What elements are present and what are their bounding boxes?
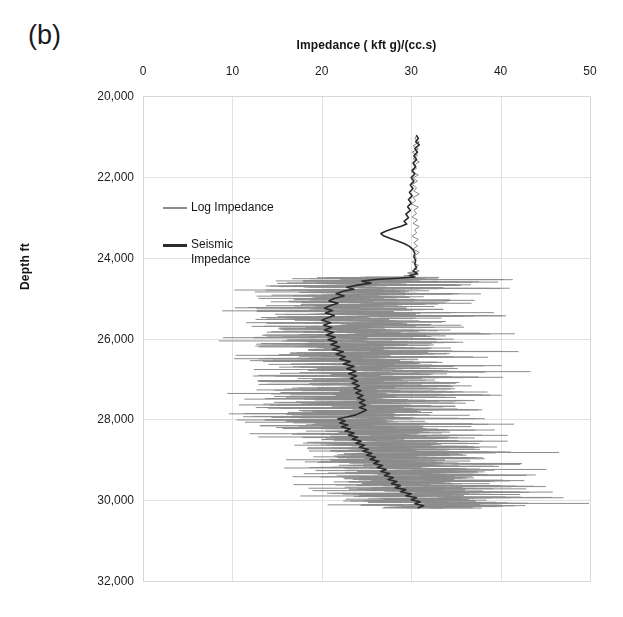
legend-item: Seismic Impedance bbox=[163, 237, 313, 267]
y-tick-label: 20,000 bbox=[97, 89, 134, 103]
y-tick-label: 30,000 bbox=[97, 493, 134, 507]
x-tick-label: 20 bbox=[315, 64, 328, 78]
legend-label: Log Impedance bbox=[191, 200, 274, 215]
legend-label: Seismic Impedance bbox=[191, 237, 283, 267]
y-axis-title: Depth ft bbox=[18, 243, 32, 290]
chart-legend: Log ImpedanceSeismic Impedance bbox=[163, 200, 313, 289]
figure-panel-b: (b) Impedance ( kft g)/(cc.s) 0102030405… bbox=[0, 0, 623, 617]
x-tick-label: 10 bbox=[226, 64, 239, 78]
x-tick-label: 30 bbox=[405, 64, 418, 78]
legend-item: Log Impedance bbox=[163, 200, 313, 215]
legend-swatch-icon bbox=[163, 244, 187, 247]
legend-swatch-icon bbox=[163, 207, 187, 209]
x-axis-title: Impedance ( kft g)/(cc.s) bbox=[143, 38, 590, 52]
y-tick-label: 26,000 bbox=[97, 332, 134, 346]
y-tick-label: 32,000 bbox=[97, 574, 134, 588]
y-tick-label: 28,000 bbox=[97, 412, 134, 426]
x-tick-label: 40 bbox=[494, 64, 507, 78]
x-tick-label: 50 bbox=[583, 64, 596, 78]
y-tick-label: 22,000 bbox=[97, 170, 134, 184]
x-tick-label: 0 bbox=[140, 64, 147, 78]
y-tick-label: 24,000 bbox=[97, 251, 134, 265]
y-tick-labels: 20,00022,00024,00026,00028,00030,00032,0… bbox=[46, 0, 134, 617]
